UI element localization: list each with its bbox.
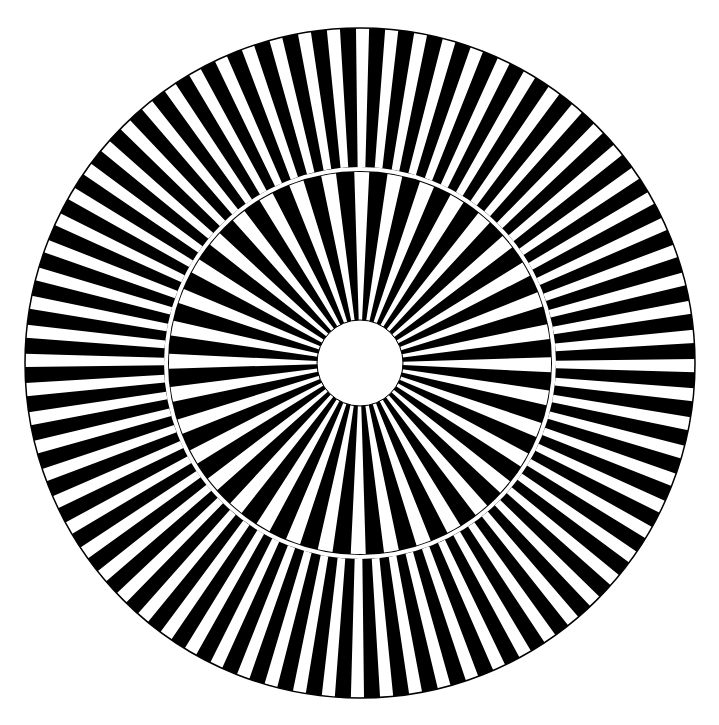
spoke-pattern-figure [0, 0, 719, 725]
center-hole [317, 320, 403, 406]
